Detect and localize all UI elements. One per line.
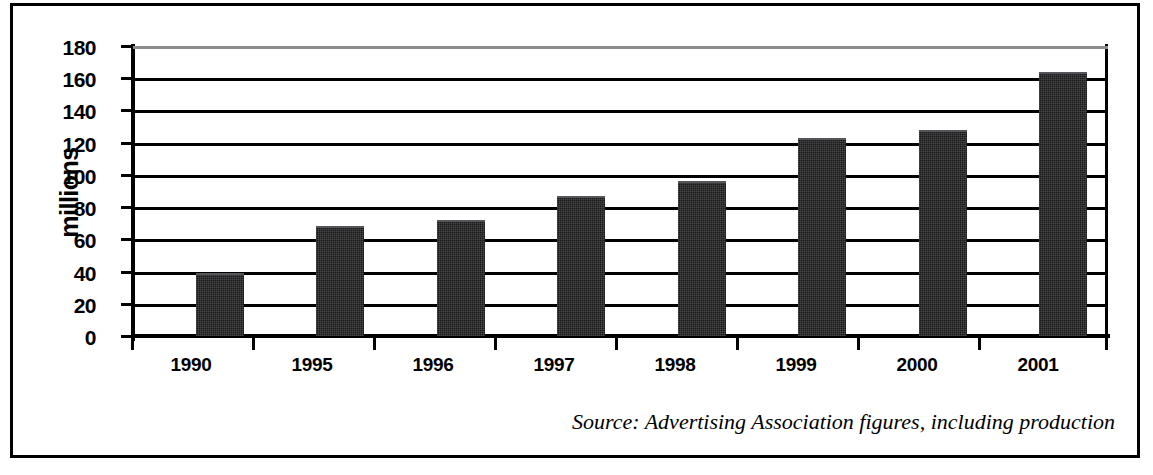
bar-2001[interactable] xyxy=(1039,72,1087,336)
bar-1999[interactable] xyxy=(798,138,846,336)
bar-1996[interactable] xyxy=(437,220,485,336)
bar-1997[interactable] xyxy=(557,196,605,336)
x-tick-label-1996: 1996 xyxy=(373,354,493,376)
source-note: Source: Advertising Association figures,… xyxy=(572,409,1115,435)
x-tick-label-1990: 1990 xyxy=(131,354,251,376)
x-tick-label-2000: 2000 xyxy=(857,354,977,376)
gridline-180 xyxy=(133,46,1108,49)
bar-2000[interactable] xyxy=(919,130,967,336)
x-tick-label-1995: 1995 xyxy=(252,354,372,376)
x-tick-mark-8 xyxy=(1105,338,1108,350)
gridline-140 xyxy=(133,110,1108,113)
x-tick-mark-1 xyxy=(252,338,255,350)
x-tick-mark-6 xyxy=(857,338,860,350)
x-tick-label-2001: 2001 xyxy=(978,354,1098,376)
x-tick-mark-3 xyxy=(494,338,497,350)
bar-1995[interactable] xyxy=(316,226,364,336)
y-tick-label-100: 100 xyxy=(26,166,96,187)
bar-1998[interactable] xyxy=(678,181,726,336)
y-tick-label-120: 120 xyxy=(26,134,96,155)
y-tick-label-180: 180 xyxy=(26,37,96,58)
x-tick-mark-4 xyxy=(615,338,618,350)
y-tick-label-20: 20 xyxy=(26,295,96,316)
x-tick-mark-5 xyxy=(736,338,739,350)
y-tick-label-140: 140 xyxy=(26,101,96,122)
x-tick-label-1999: 1999 xyxy=(736,354,856,376)
x-tick-label-1997: 1997 xyxy=(494,354,614,376)
y-tick-label-160: 160 xyxy=(26,69,96,90)
x-tick-mark-0 xyxy=(131,338,134,350)
y-tick-label-40: 40 xyxy=(26,263,96,284)
gridline-160 xyxy=(133,78,1108,81)
y-tick-label-60: 60 xyxy=(26,230,96,251)
chart-figure-frame: millions 180 160 140 120 100 80 60 40 20… xyxy=(10,3,1140,458)
bar-chart: millions 180 160 140 120 100 80 60 40 20… xyxy=(13,6,1137,455)
y-tick-label-80: 80 xyxy=(26,198,96,219)
x-tick-mark-2 xyxy=(373,338,376,350)
y-tick-label-0: 0 xyxy=(26,327,96,348)
x-tick-mark-7 xyxy=(978,338,981,350)
plot-area xyxy=(133,46,1108,336)
x-tick-label-1998: 1998 xyxy=(615,354,735,376)
bar-1990[interactable] xyxy=(196,273,244,336)
